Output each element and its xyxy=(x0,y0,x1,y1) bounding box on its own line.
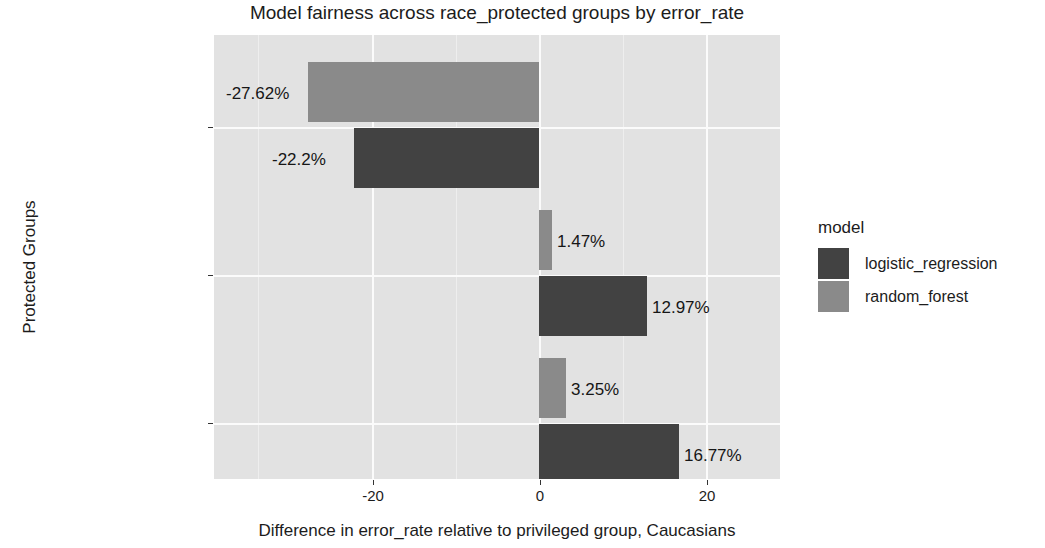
legend-item-random-forest[interactable]: random_forest xyxy=(818,280,1033,313)
bar-african-american-random-forest[interactable] xyxy=(539,358,566,418)
bar-other-logistic-regression[interactable] xyxy=(539,276,647,336)
legend-item-logistic-regression[interactable]: logistic_regression xyxy=(818,247,1033,280)
legend-key-random-forest xyxy=(818,281,849,312)
gridline-major-x-20 xyxy=(706,35,708,479)
chart-figure: Model fairness across race_protected gro… xyxy=(0,0,1045,548)
legend-key-logistic-regression xyxy=(818,248,849,279)
legend-label-random-forest: random_forest xyxy=(865,288,968,306)
bar-label-african-american-logistic-regression: 16.77% xyxy=(684,447,742,464)
y-axis-title: Protected Groups xyxy=(20,167,40,367)
bar-other-random-forest[interactable] xyxy=(539,210,552,270)
x-tick-mark-20 xyxy=(707,480,708,485)
gridline-minor-x-10 xyxy=(623,35,624,479)
x-axis-title: Difference in error_rate relative to pri… xyxy=(214,521,780,541)
x-tick-label-20: 20 xyxy=(699,487,716,504)
y-tick-mark-hispanic xyxy=(208,127,213,128)
x-tick-label-neg20: -20 xyxy=(362,487,384,504)
chart-title: Model fairness across race_protected gro… xyxy=(214,2,780,24)
legend-label-logistic-regression: logistic_regression xyxy=(865,255,998,273)
y-tick-mark-other xyxy=(208,275,213,276)
legend: model logistic_regression random_forest xyxy=(818,218,1033,313)
legend-title: model xyxy=(818,218,1033,238)
gridline-major-y-african-american xyxy=(214,423,780,425)
x-tick-mark-neg20 xyxy=(373,480,374,485)
bar-hispanic-random-forest[interactable] xyxy=(308,62,539,122)
y-tick-mark-african-american xyxy=(208,423,213,424)
bar-label-hispanic-logistic-regression: -22.2% xyxy=(272,151,326,168)
bar-african-american-logistic-regression[interactable] xyxy=(539,424,679,479)
legend-swatch-random-forest xyxy=(818,281,849,312)
bar-label-other-random-forest: 1.47% xyxy=(557,233,605,250)
legend-swatch-logistic-regression xyxy=(818,248,849,279)
plot-panel: -27.62% -22.2% 1.47% 12.97% 3.25% 16.77% xyxy=(214,35,780,479)
x-tick-label-0: 0 xyxy=(536,487,544,504)
gridline-major-y-other xyxy=(214,275,780,277)
bar-label-other-logistic-regression: 12.97% xyxy=(652,299,710,316)
bar-label-african-american-random-forest: 3.25% xyxy=(571,381,619,398)
x-tick-mark-0 xyxy=(540,480,541,485)
bar-hispanic-logistic-regression[interactable] xyxy=(354,128,539,188)
bar-label-hispanic-random-forest: -27.62% xyxy=(226,85,289,102)
